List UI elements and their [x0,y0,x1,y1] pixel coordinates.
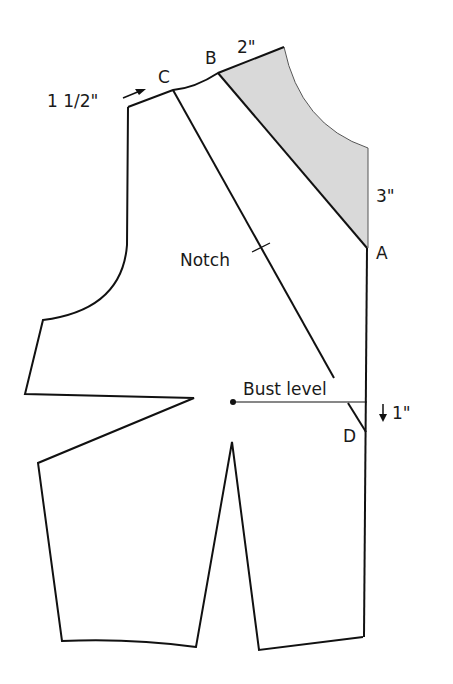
bust-point [230,399,236,405]
bust-level-label: Bust level [243,379,327,399]
bust-drop-arrowhead-icon [379,414,387,422]
notch-label: Notch [180,250,230,270]
center-front-line [364,248,367,637]
bodice-pattern-diagram: C B 2" 1 1/2" 3" A Notch Bust level 1" D [0,0,453,684]
bust-drop-label: 1" [392,403,411,423]
point-label-a: A [376,243,388,263]
notch-mark [252,243,270,252]
point-label-d: D [343,426,356,446]
point-label-b: B [205,48,217,68]
point-label-c: C [158,67,170,87]
neck-depth-label: 3" [376,186,395,206]
shoulder-shift-label: 1 1/2" [47,91,98,111]
neck-width-label: 2" [237,37,256,57]
